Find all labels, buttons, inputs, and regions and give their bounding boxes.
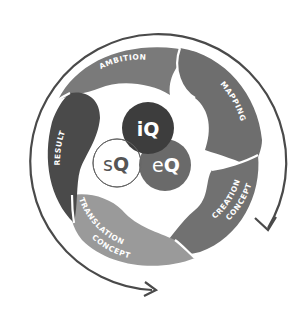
segment-ambition: AMBITION	[58, 47, 195, 100]
sq-label: sQ	[103, 153, 129, 175]
center-q-circles: iQ eQ sQ	[93, 102, 191, 191]
cycle-diagram: AMBITION MAPPING CONCEPT CREATION CONCEP…	[0, 0, 301, 317]
iq-label: iQ	[137, 118, 160, 140]
eq-label: eQ	[152, 154, 180, 176]
segment-mapping: MAPPING	[177, 48, 262, 168]
